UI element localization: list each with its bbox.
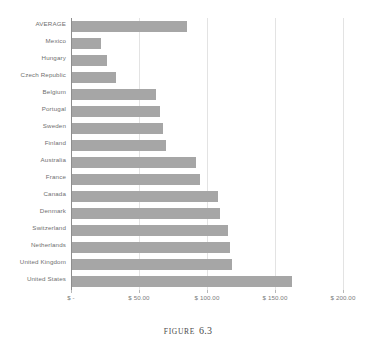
bar-row: United Kingdom [0, 256, 376, 273]
bar-row: France [0, 171, 376, 188]
tick-mark-200 [343, 290, 344, 293]
bar [72, 259, 232, 270]
bar [72, 174, 200, 185]
bar [72, 72, 116, 83]
bar-row: Finland [0, 137, 376, 154]
bar [72, 55, 107, 66]
tick-mark-150 [275, 290, 276, 293]
bar-row: United States [0, 273, 376, 290]
bar-row: AVERAGE [0, 18, 376, 35]
category-label: Belgium [0, 88, 66, 95]
category-label: United States [0, 275, 66, 282]
tick-label-0: $ - [67, 294, 75, 301]
bar [72, 21, 187, 32]
bar [72, 38, 101, 49]
category-label: Czech Republic [0, 71, 66, 78]
category-label: Finland [0, 139, 66, 146]
bar-series: AVERAGEMexicoHungaryCzech RepublicBelgiu… [0, 18, 376, 290]
category-label: Canada [0, 190, 66, 197]
x-axis: $ -$ 50.00$ 100.00$ 150.00$ 200.00 [0, 290, 376, 308]
figure-container: AVERAGEMexicoHungaryCzech RepublicBelgiu… [0, 0, 376, 347]
bar [72, 242, 230, 253]
category-label: Netherlands [0, 241, 66, 248]
category-label: Hungary [0, 54, 66, 61]
bar [72, 225, 228, 236]
bar [72, 208, 220, 219]
caption-word: Figure [164, 327, 195, 336]
category-label: Switzerland [0, 224, 66, 231]
category-label: Mexico [0, 37, 66, 44]
category-label: Denmark [0, 207, 66, 214]
category-label: Australia [0, 156, 66, 163]
category-label: Portugal [0, 105, 66, 112]
bar-row: Sweden [0, 120, 376, 137]
bar-row: Canada [0, 188, 376, 205]
bar [72, 157, 196, 168]
bar [72, 106, 160, 117]
bar-row: Denmark [0, 205, 376, 222]
tick-label-100: $ 100.00 [195, 294, 220, 301]
category-label: United Kingdom [0, 258, 66, 265]
tick-mark-100 [207, 290, 208, 293]
category-label: Sweden [0, 122, 66, 129]
category-label: France [0, 173, 66, 180]
bar-row: Belgium [0, 86, 376, 103]
bar-row: Mexico [0, 35, 376, 52]
bar [72, 276, 292, 287]
bar-row: Netherlands [0, 239, 376, 256]
figure-caption: Figure 6.3 [0, 320, 376, 338]
bar [72, 89, 156, 100]
bar-row: Australia [0, 154, 376, 171]
chart-plot-area: AVERAGEMexicoHungaryCzech RepublicBelgiu… [0, 0, 376, 300]
bar-row: Switzerland [0, 222, 376, 239]
bar [72, 140, 166, 151]
bar-row: Czech Republic [0, 69, 376, 86]
tick-mark-0 [71, 290, 72, 293]
tick-label-200: $ 200.00 [331, 294, 356, 301]
bar-row: Portugal [0, 103, 376, 120]
tick-label-50: $ 50.00 [128, 294, 149, 301]
category-label: AVERAGE [0, 20, 66, 27]
tick-mark-50 [139, 290, 140, 293]
bar-row: Hungary [0, 52, 376, 69]
bar [72, 123, 163, 134]
caption-number: 6.3 [199, 325, 212, 336]
tick-label-150: $ 150.00 [263, 294, 288, 301]
bar [72, 191, 218, 202]
